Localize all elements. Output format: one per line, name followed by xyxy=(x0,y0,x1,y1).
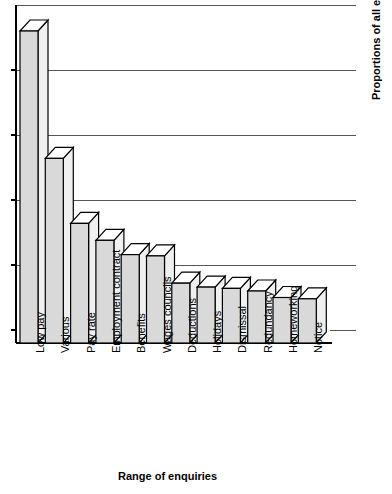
category-label-7: Holidays xyxy=(212,311,223,353)
category-label-4: Benefits xyxy=(136,313,147,353)
category-label-6: Deductions xyxy=(187,298,198,353)
bars-group xyxy=(20,20,326,343)
category-label-5: Wages councils xyxy=(162,276,173,353)
y-axis-title: Proportions of all enquiries xyxy=(370,0,382,100)
bar-front-face xyxy=(45,158,63,343)
bar-1 xyxy=(45,147,73,343)
category-label-8: Dismissal xyxy=(237,306,248,353)
category-label-10: Homeworking xyxy=(288,286,299,353)
category-label-9: Redundancy xyxy=(263,291,274,353)
category-label-3: Employment contract xyxy=(111,250,122,353)
bar-chart: Low payVariousPay rateEmployment contrac… xyxy=(0,0,392,494)
x-axis-title: Range of enquiries xyxy=(118,470,217,482)
category-label-1: Various xyxy=(60,317,71,353)
bar-0 xyxy=(20,20,48,343)
y-axis-ticks xyxy=(11,70,16,330)
chart-plot-area xyxy=(0,0,392,494)
category-label-2: Pay rate xyxy=(86,312,97,353)
category-label-0: Low pay xyxy=(35,312,46,353)
category-label-11: Notice xyxy=(313,322,324,353)
bar-front-face xyxy=(20,31,38,343)
